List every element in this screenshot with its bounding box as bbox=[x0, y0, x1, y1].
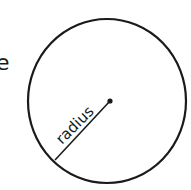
center-point bbox=[107, 98, 112, 103]
circle-outline bbox=[28, 19, 186, 183]
radius-label: radius bbox=[52, 102, 98, 148]
partial-edge-text: e bbox=[0, 50, 10, 75]
circle-diagram: e radius bbox=[0, 0, 191, 190]
